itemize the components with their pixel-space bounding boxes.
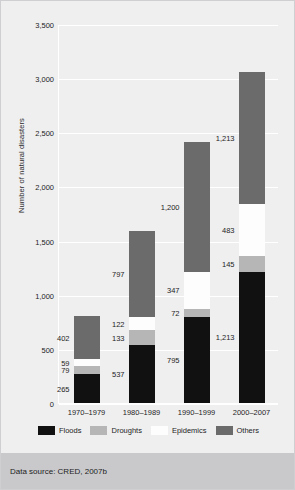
y-axis-title: Number of natural disasters bbox=[17, 86, 26, 246]
bar-value-label: 145 bbox=[222, 259, 235, 268]
legend-item-floods[interactable]: Floods bbox=[38, 426, 82, 435]
legend-swatch-floods bbox=[38, 426, 55, 435]
legend-label: Droughts bbox=[111, 426, 141, 435]
chart-plot-area: Number of natural disasters 05001,0001,5… bbox=[1, 1, 295, 453]
bar-value-label: 483 bbox=[222, 225, 235, 234]
bar-segment-epidemics[interactable]: 347 bbox=[184, 272, 210, 310]
gridline bbox=[59, 25, 278, 26]
bar-segment-epidemics[interactable]: 483 bbox=[239, 204, 265, 256]
y-axis-tick-label: 1,500 bbox=[35, 237, 54, 246]
legend-swatch-epidemics bbox=[151, 426, 168, 435]
legend-swatch-droughts bbox=[90, 426, 107, 435]
bar-value-label: 1,200 bbox=[161, 202, 180, 211]
y-axis-tick-label: 2,000 bbox=[35, 183, 54, 192]
bar-segment-floods[interactable]: 265 bbox=[74, 374, 100, 403]
bar-value-label: 797 bbox=[112, 270, 125, 279]
data-source-text: Data source: CRED, 2007b bbox=[1, 467, 107, 476]
bar-segment-floods[interactable]: 1,213 bbox=[239, 272, 265, 403]
y-axis-tick-label: 1,000 bbox=[35, 291, 54, 300]
chart-figure: Number of natural disasters 05001,0001,5… bbox=[0, 0, 295, 490]
bar-segment-others[interactable]: 1,213 bbox=[239, 72, 265, 203]
legend-item-epidemics[interactable]: Epidemics bbox=[151, 426, 207, 435]
bar-value-label: 795 bbox=[167, 355, 180, 364]
bar-stack[interactable]: 1,2131454831,2132000–2007 bbox=[239, 72, 265, 403]
legend-label: Others bbox=[237, 426, 260, 435]
bar-value-label: 402 bbox=[57, 333, 70, 342]
legend-label: Epidemics bbox=[172, 426, 207, 435]
bar-segment-others[interactable]: 1,200 bbox=[184, 142, 210, 272]
chart-legend: FloodsDroughtsEpidemicsOthers bbox=[1, 426, 295, 435]
bar-stack[interactable]: 5371331227971980–1989 bbox=[129, 231, 155, 403]
bar-stack[interactable]: 26579594021970–1979 bbox=[74, 316, 100, 403]
bar-segment-droughts[interactable]: 145 bbox=[239, 256, 265, 272]
bar-value-label: 133 bbox=[112, 333, 125, 342]
bar-segment-floods[interactable]: 537 bbox=[129, 345, 155, 403]
bar-segment-epidemics[interactable]: 122 bbox=[129, 317, 155, 330]
bar-value-label: 122 bbox=[112, 319, 125, 328]
bar-segment-others[interactable]: 402 bbox=[74, 316, 100, 360]
gridline bbox=[59, 404, 278, 405]
y-axis-tick-label: 3,500 bbox=[35, 21, 54, 30]
legend-item-others[interactable]: Others bbox=[216, 426, 260, 435]
bar-value-label: 1,213 bbox=[216, 134, 235, 143]
bar-segment-droughts[interactable]: 133 bbox=[129, 330, 155, 344]
figure-footer: Data source: CRED, 2007b bbox=[1, 453, 295, 489]
legend-label: Floods bbox=[59, 426, 82, 435]
y-axis-tick-label: 2,500 bbox=[35, 129, 54, 138]
legend-swatch-others bbox=[216, 426, 233, 435]
bar-value-label: 1,213 bbox=[216, 333, 235, 342]
bar-value-label: 72 bbox=[171, 309, 179, 318]
legend-item-droughts[interactable]: Droughts bbox=[90, 426, 141, 435]
bar-value-label: 59 bbox=[61, 358, 69, 367]
x-axis-tick-label: 2000–2007 bbox=[219, 408, 285, 417]
bar-value-label: 537 bbox=[112, 369, 125, 378]
bar-segment-droughts[interactable]: 79 bbox=[74, 366, 100, 375]
bar-stack[interactable]: 795723471,2001990–1999 bbox=[184, 142, 210, 403]
bar-segment-floods[interactable]: 795 bbox=[184, 317, 210, 403]
bar-segment-droughts[interactable]: 72 bbox=[184, 309, 210, 317]
bar-value-label: 347 bbox=[167, 286, 180, 295]
bar-segment-epidemics[interactable]: 59 bbox=[74, 359, 100, 365]
y-axis-tick-label: 3,000 bbox=[35, 75, 54, 84]
plot-box: 05001,0001,5002,0002,5003,0003,500265795… bbox=[58, 25, 278, 404]
bar-segment-others[interactable]: 797 bbox=[129, 231, 155, 317]
bar-value-label: 265 bbox=[57, 384, 70, 393]
y-axis-tick-label: 500 bbox=[41, 345, 54, 354]
